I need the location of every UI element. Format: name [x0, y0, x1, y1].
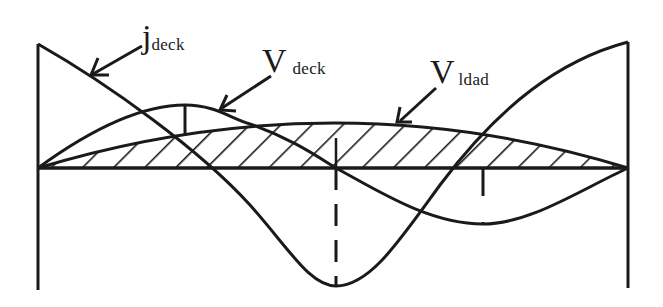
v-load-area: [38, 100, 630, 170]
j-deck-label: jdeck: [142, 20, 185, 54]
j-deck-label-sub: deck: [151, 35, 184, 54]
v-load-label: Vldad: [430, 55, 489, 89]
v-deck-label-main: V: [262, 42, 287, 79]
v-load-arrow: [397, 88, 436, 122]
j-deck-arrow: [91, 46, 142, 75]
v-deck-label: Vdeck: [262, 44, 326, 78]
v-load-label-main: V: [430, 53, 455, 90]
influence-diagram: [0, 0, 663, 307]
v-load-label-sub: ldad: [459, 70, 489, 89]
v-deck-arrow: [220, 76, 271, 111]
v-deck-label-sub: deck: [293, 59, 326, 78]
